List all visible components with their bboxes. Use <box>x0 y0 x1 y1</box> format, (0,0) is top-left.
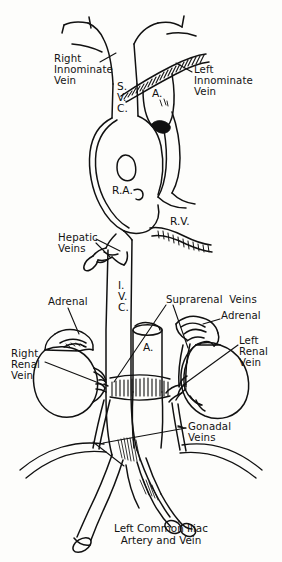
label-right-renal-vein: Right Renal Vein <box>11 348 40 382</box>
label-superior-vena-cava: S. V. C. <box>117 81 128 114</box>
label-hepatic-veins: Hepatic Veins <box>58 232 98 254</box>
label-left-innominate-vein: Left Innominate Vein <box>194 64 253 98</box>
figure-caption: Left Common Iliac Artery and Vein <box>96 522 226 546</box>
anatomical-figure: Right Innominate Vein Left Innominate Ve… <box>0 0 282 562</box>
label-abdominal-aorta: A. <box>143 342 153 353</box>
leader-lines <box>45 53 238 466</box>
label-right-ventricle: R.V. <box>170 216 190 227</box>
label-gonadal-veins: Gonadal Veins <box>188 421 231 443</box>
right-atrium-group <box>89 116 162 233</box>
label-suprarenal-veins: Suprarenal Veins <box>166 294 257 305</box>
label-inferior-vena-cava: I. V. C. <box>118 280 129 313</box>
label-right-atrium: R.A. <box>112 185 133 196</box>
left-renal-vein-group <box>166 344 205 411</box>
label-adrenal-left-side: Adrenal <box>221 310 261 321</box>
right-ventricle-striations <box>158 231 209 252</box>
label-left-renal-vein: Left Renal Vein <box>239 335 268 369</box>
label-adrenal-right-side: Adrenal <box>48 296 88 307</box>
label-right-innominate-vein: Right Innominate Vein <box>54 53 113 87</box>
renal-band-striations <box>112 378 168 396</box>
label-aortic-arch: A. <box>152 88 162 99</box>
